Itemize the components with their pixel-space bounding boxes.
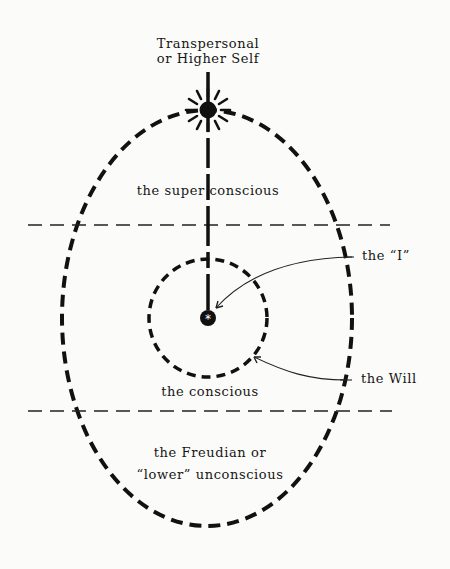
lower-unconscious-label: the Freudian or “lower” unconscious xyxy=(136,442,283,486)
lower-unconscious-label-line2: “lower” unconscious xyxy=(136,464,283,486)
higher-self-label-line2: or Higher Self xyxy=(157,51,260,66)
will-callout-arrow xyxy=(254,357,352,380)
superconscious-label: the super conscious xyxy=(137,183,280,198)
higher-self-label: Transpersonal or Higher Self xyxy=(157,36,260,66)
lower-unconscious-label-line1: the Freudian or xyxy=(136,442,283,464)
higher-self-sun-icon xyxy=(186,88,230,131)
will-callout-label: the Will xyxy=(361,371,417,386)
personal-self-i-icon: * xyxy=(200,310,216,326)
svg-text:*: * xyxy=(205,312,211,326)
i-callout-label: the “I” xyxy=(362,248,410,263)
higher-self-label-line1: Transpersonal xyxy=(157,36,260,51)
conscious-label: the conscious xyxy=(161,384,259,399)
